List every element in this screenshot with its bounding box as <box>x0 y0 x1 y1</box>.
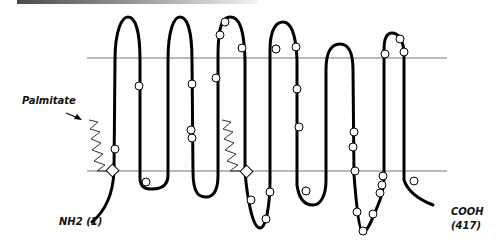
residue-markers <box>111 18 418 235</box>
diamond-marker-2 <box>240 165 253 178</box>
c-terminus-label-line2: (417) <box>451 219 481 232</box>
c-terminus-label-line1: COOH <box>451 205 484 218</box>
n-terminus-label: NH2 (1) <box>59 215 102 228</box>
palmitate-chain-1 <box>89 120 111 171</box>
topology-diagram: Palmitate NH2 (1) COOH (417) <box>0 0 502 252</box>
palmitate-label: Palmitate <box>22 94 76 107</box>
palmitate-chain-2 <box>222 120 244 171</box>
diamond-marker-1 <box>106 164 119 177</box>
protein-backbone <box>92 17 433 232</box>
